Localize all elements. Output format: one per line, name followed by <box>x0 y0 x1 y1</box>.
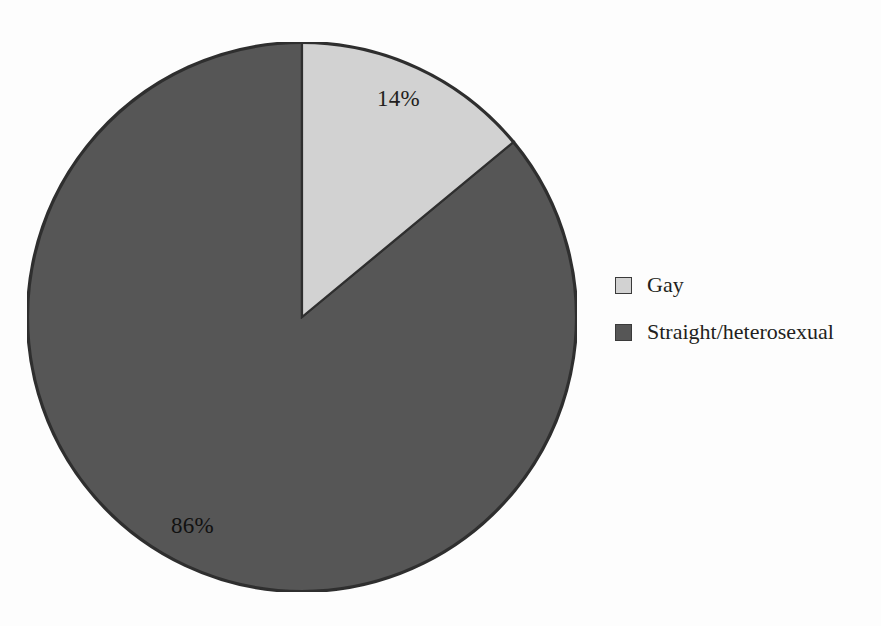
chart-legend: Gay Straight/heterosexual <box>615 272 877 366</box>
legend-swatch-straight-heterosexual-icon <box>615 324 632 341</box>
pie-label-straight-percent: 86% <box>171 514 214 537</box>
pie-label-gay-percent: 14% <box>377 87 420 110</box>
pie-svg <box>27 42 577 592</box>
legend-item-gay[interactable]: Gay <box>615 272 877 298</box>
legend-swatch-gay-icon <box>615 277 632 294</box>
legend-label-straight-heterosexual: Straight/heterosexual <box>647 320 834 343</box>
pie-chart-figure: 14% 86% Gay Straight/heterosexual <box>0 0 881 626</box>
pie-chart-graphic <box>27 42 577 592</box>
legend-item-straight-heterosexual[interactable]: Straight/heterosexual <box>615 319 877 345</box>
legend-label-gay: Gay <box>647 273 684 296</box>
